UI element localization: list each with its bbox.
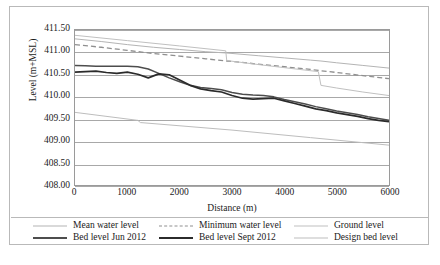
- y-tick-label: 411.00: [44, 47, 70, 57]
- series-line: [75, 71, 389, 121]
- figure-container: Level (m+MSL) 408.00408.50409.00409.5041…: [9, 6, 429, 245]
- series-line: [75, 112, 389, 145]
- legend-item[interactable]: Bed level Jun 2012: [11, 233, 159, 243]
- y-tick-label: 410.00: [44, 92, 70, 102]
- legend-item[interactable]: Mean water level: [11, 221, 159, 231]
- y-tick-label: 409.00: [44, 136, 70, 146]
- legend-row: Mean water levelMinimum water levelGroun…: [11, 220, 429, 232]
- legend-swatch-icon: [33, 234, 67, 242]
- y-tick-label: 409.50: [44, 114, 70, 124]
- legend-label: Bed level Sept 2012: [199, 233, 276, 243]
- legend-swatch-icon: [33, 222, 67, 230]
- plot-area: [74, 29, 390, 186]
- x-tick-label: 6000: [381, 188, 400, 198]
- legend-label: Bed level Jun 2012: [73, 233, 146, 243]
- legend-label: Ground level: [334, 221, 384, 231]
- legend-item[interactable]: Ground level: [294, 221, 429, 231]
- x-axis-ticks: 0100020003000400050006000: [74, 188, 390, 202]
- y-tick-label: 410.50: [44, 69, 70, 79]
- legend-swatch-icon: [294, 222, 328, 230]
- x-tick-label: 4000: [275, 188, 294, 198]
- legend-item[interactable]: Bed level Sept 2012: [159, 233, 294, 243]
- series-line: [75, 39, 389, 68]
- x-tick-label: 2000: [170, 188, 189, 198]
- legend-item[interactable]: Minimum water level: [159, 221, 294, 231]
- legend-label: Minimum water level: [199, 221, 281, 231]
- y-tick-label: 408.50: [44, 159, 70, 169]
- x-axis-title: Distance (m): [74, 203, 390, 213]
- legend-row: Bed level Jun 2012Bed level Sept 2012Des…: [11, 232, 429, 244]
- series-layer: [75, 30, 389, 185]
- x-tick-label: 3000: [223, 188, 242, 198]
- y-tick-label: 408.00: [44, 181, 70, 191]
- legend-label: Mean water level: [73, 221, 139, 231]
- legend-swatch-icon: [159, 234, 193, 242]
- x-tick-label: 1000: [117, 188, 136, 198]
- legend-swatch-icon: [294, 234, 328, 242]
- legend-swatch-icon: [159, 222, 193, 230]
- x-tick-label: 0: [72, 188, 77, 198]
- chart-legend: Mean water levelMinimum water levelGroun…: [11, 217, 429, 245]
- line-chart-svg: [75, 30, 389, 185]
- legend-label: Design bed level: [334, 233, 398, 243]
- x-tick-label: 5000: [328, 188, 347, 198]
- legend-item[interactable]: Design bed level: [294, 233, 429, 243]
- y-tick-label: 411.50: [44, 24, 70, 34]
- y-axis-ticks: 408.00408.50409.00409.50410.00410.50411.…: [10, 29, 70, 186]
